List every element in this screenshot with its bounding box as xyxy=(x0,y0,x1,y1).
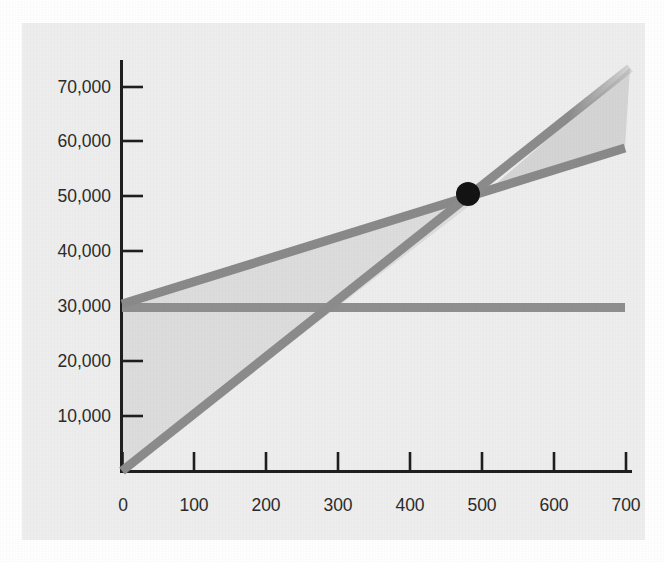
y-tick-label-50000: 50,000 xyxy=(13,186,111,207)
y-tick-label-20000: 20,000 xyxy=(13,351,111,372)
x-tick-label-400: 400 xyxy=(395,495,424,516)
y-tick-label-10000: 10,000 xyxy=(13,406,111,427)
y-tick-label-70000: 70,000 xyxy=(13,77,111,98)
y-tick-label-30000: 30,000 xyxy=(13,296,111,317)
total-cost-line xyxy=(122,148,625,304)
x-tick-label-0: 0 xyxy=(118,495,128,516)
x-axis-ticks xyxy=(123,452,627,471)
x-tick-label-500: 500 xyxy=(467,495,496,516)
x-tick-label-100: 100 xyxy=(179,495,208,516)
break-even-point-marker xyxy=(456,182,480,206)
y-tick-label-60000: 60,000 xyxy=(13,131,111,152)
y-tick-label-40000: 40,000 xyxy=(13,241,111,262)
x-tick-label-300: 300 xyxy=(323,495,352,516)
revenue-line xyxy=(122,68,630,471)
x-tick-label-200: 200 xyxy=(251,495,280,516)
x-tick-label-600: 600 xyxy=(539,495,568,516)
break-even-chart: 70,000 60,000 50,000 40,000 30,000 20,00… xyxy=(0,0,664,562)
x-tick-label-700: 700 xyxy=(611,495,640,516)
